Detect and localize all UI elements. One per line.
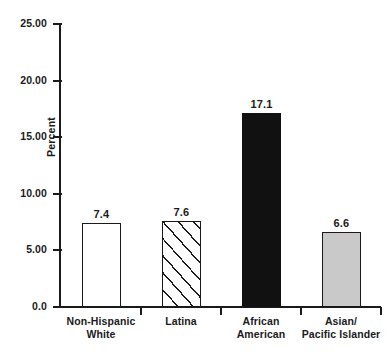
- y-axis-line: [59, 23, 61, 308]
- y-axis-tick: [53, 80, 62, 82]
- bar-chart: Percent 25.0020.0015.0010.005.000.0 7.4N…: [0, 0, 388, 352]
- y-axis-tick-label: 10.00: [1, 187, 47, 199]
- x-axis-tick: [380, 307, 382, 315]
- x-axis-category-label: Latina: [135, 315, 227, 328]
- x-axis-tick: [300, 307, 302, 315]
- x-axis-category-label-line: American: [215, 328, 307, 341]
- y-axis-tick-label: 20.00: [1, 74, 47, 86]
- bar-value-label: 17.1: [226, 98, 297, 110]
- bar: [162, 221, 201, 307]
- bar: [82, 223, 121, 307]
- bar-value-label: 7.4: [66, 208, 137, 220]
- x-axis-category-label-line: Latina: [135, 315, 227, 328]
- x-axis-category-label-line: Asian/: [295, 315, 387, 328]
- x-axis-category-label: Non-HispanicWhite: [55, 315, 147, 340]
- x-axis-category-label-line: White: [55, 328, 147, 341]
- x-axis-category-label: AfricanAmerican: [215, 315, 307, 340]
- y-axis-tick: [53, 136, 62, 138]
- y-axis-tick-label: 0.0: [1, 300, 47, 312]
- x-axis-category-label-line: African: [215, 315, 307, 328]
- x-axis-category-label-line: Non-Hispanic: [55, 315, 147, 328]
- y-axis-tick: [53, 249, 62, 251]
- y-axis-tick: [53, 306, 62, 308]
- y-axis-tick-label: 25.00: [1, 17, 47, 29]
- bar-value-label: 7.6: [146, 206, 217, 218]
- y-axis-tick: [53, 23, 62, 25]
- bar-value-label: 6.6: [306, 217, 377, 229]
- x-axis-tick: [220, 307, 222, 315]
- bar: [242, 113, 281, 307]
- x-axis-category-label-line: Pacific Islander: [295, 328, 387, 341]
- x-axis-tick: [140, 307, 142, 315]
- y-axis-tick: [53, 193, 62, 195]
- y-axis-tick-label: 15.00: [1, 130, 47, 142]
- bar: [322, 232, 361, 307]
- x-axis-category-label: Asian/Pacific Islander: [295, 315, 387, 340]
- y-axis-tick-label: 5.00: [1, 243, 47, 255]
